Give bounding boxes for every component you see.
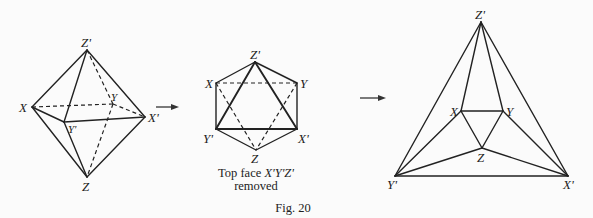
caption-removed: removed xyxy=(234,179,278,193)
vertex-label-xp: X' xyxy=(297,131,309,146)
vertex-label-yp: Y' xyxy=(203,131,213,146)
octahedron-panel: Z' X Y Y' X' Z xyxy=(18,35,159,194)
arrow-right-icon xyxy=(360,95,386,101)
vertex-label-yp: Y' xyxy=(387,177,397,192)
edge-x-z xyxy=(32,107,87,177)
edge-x-yp xyxy=(32,107,64,122)
edge-xp-y xyxy=(503,111,568,176)
vertex-label-z: Z xyxy=(477,150,485,165)
edge-zp-x xyxy=(461,22,481,111)
vertex-label-z: Z xyxy=(251,151,259,166)
figure-20-diagram: Z' X Y Y' X' Z Z' X Y Y' X' Z Top face X… xyxy=(0,0,593,218)
schlegel-panel: Z' X Y Z Y' X' xyxy=(387,7,574,192)
edge-x-z xyxy=(461,111,482,148)
edge-yp-x xyxy=(395,111,461,176)
vertex-label-x: X xyxy=(204,76,214,91)
vertex-label-y: Y xyxy=(300,76,309,91)
vertex-label-xp: X' xyxy=(147,110,159,125)
edge-y-z-hidden xyxy=(87,104,113,177)
edge-zp-y-hidden xyxy=(87,50,113,104)
figure-number: Fig. 20 xyxy=(275,201,310,215)
edge-yp-xp xyxy=(64,117,145,122)
vertex-label-yp: Y' xyxy=(68,123,77,135)
vertex-label-zp: Z' xyxy=(475,7,485,22)
edge-zp-xp xyxy=(481,22,568,176)
vertex-label-x: X xyxy=(449,104,459,119)
edge-zp-y xyxy=(481,22,503,111)
edge-x-y-hidden xyxy=(32,104,113,107)
vertex-label-zp: Z' xyxy=(250,47,260,62)
hexagon-panel: Z' X Y Y' X' Z Top face X'Y'Z' removed xyxy=(203,47,309,193)
vertex-label-xp: X' xyxy=(562,177,574,192)
vertex-label-x: X xyxy=(18,100,28,115)
edge-zp-xp xyxy=(87,50,145,117)
vertex-label-z: Z xyxy=(82,179,90,194)
edge-xp-z xyxy=(87,117,145,177)
edge-y-z xyxy=(482,111,503,148)
edge-zp-yp xyxy=(64,50,87,122)
caption-top-face: Top face X'Y'Z' xyxy=(218,166,294,180)
edge-zp-x xyxy=(32,50,87,107)
arrow-right-icon xyxy=(156,104,179,110)
vertex-label-y: Y xyxy=(111,91,119,103)
vertex-label-zp: Z' xyxy=(81,35,91,50)
vertex-label-y: Y xyxy=(506,104,515,119)
